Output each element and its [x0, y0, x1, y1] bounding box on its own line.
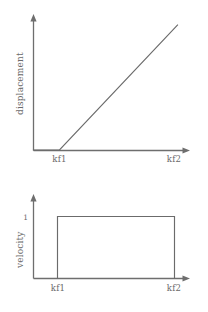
velocity-xtick-kf1: kf1: [51, 283, 65, 293]
velocity-xtick-kf2: kf2: [167, 283, 181, 293]
displacement-x-axis-arrow: [183, 147, 191, 153]
velocity-x-axis-arrow: [183, 275, 191, 281]
velocity-y-axis-arrow: [30, 194, 36, 202]
velocity-data-step: [58, 217, 175, 279]
velocity-y-axis-label: velocity: [15, 231, 25, 269]
displacement-data-line: [34, 25, 178, 150]
displacement-xtick-kf2: kf2: [167, 154, 181, 164]
displacement-y-axis-arrow: [30, 14, 36, 22]
displacement-xtick-kf1: kf1: [52, 154, 66, 164]
velocity-chart: velocity 1 kf1 kf2: [15, 194, 190, 293]
displacement-chart: displacement kf1 kf2: [15, 14, 190, 164]
charts-svg: displacement kf1 kf2 velocity 1 kf1 kf2: [0, 0, 208, 312]
displacement-y-axis-label: displacement: [15, 52, 25, 115]
figure-container: displacement kf1 kf2 velocity 1 kf1 kf2: [0, 0, 208, 312]
velocity-ytick-one: 1: [23, 213, 28, 222]
